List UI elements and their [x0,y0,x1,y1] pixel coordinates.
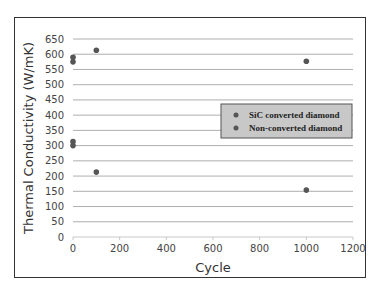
x-tick-label: 200 [110,243,129,254]
y-tick-label: 200 [45,171,64,182]
x-tick-label: 600 [203,243,222,254]
data-point [304,187,310,193]
scatter-chart: 050100150200250300350400450500550600650 … [0,0,380,296]
legend-label-non-converted: Non-converted diamond [249,123,342,133]
legend-label-sic: SiC converted diamond [249,110,340,120]
x-tick-label: 800 [250,243,269,254]
gridlines [73,39,353,240]
x-tick-label: 1000 [294,243,319,254]
y-tick-label: 0 [58,232,64,243]
y-tick-label: 400 [45,110,64,121]
y-axis-title: Thermal Conductivity (W/mK) [21,42,36,235]
x-tick-label: 400 [157,243,176,254]
data-point [304,58,310,64]
y-tick-label: 550 [45,64,64,75]
y-tick-label: 500 [45,79,64,90]
y-tick-label: 150 [45,186,64,197]
y-tick-label: 650 [45,34,64,45]
y-tick-label: 50 [51,216,64,227]
y-tick-label: 300 [45,140,64,151]
x-tick-label: 1200 [340,243,365,254]
y-tick-label: 600 [45,49,64,60]
y-tick-label: 450 [45,94,64,105]
y-tick-label: 250 [45,155,64,166]
data-point [94,47,100,53]
legend-marker-sic [234,113,239,118]
data-point [94,169,100,175]
legend: SiC converted diamond Non-converted diam… [221,104,352,138]
x-tick-label: 0 [70,243,76,254]
data-point [70,143,76,149]
x-axis-title: Cycle [195,260,231,275]
y-axis-ticks: 050100150200250300350400450500550600650 [45,34,64,243]
y-tick-label: 100 [45,201,64,212]
legend-marker-non-converted [234,126,239,131]
x-axis-ticks: 020040060080010001200 [70,243,366,254]
data-point [70,59,76,65]
y-tick-label: 350 [45,125,64,136]
